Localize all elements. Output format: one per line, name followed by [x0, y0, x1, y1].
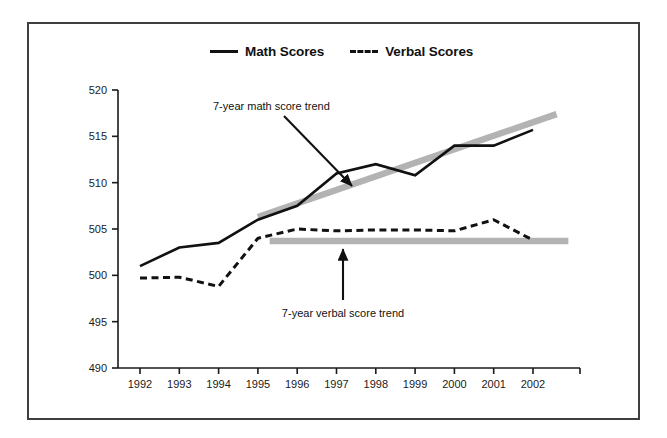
- math-trend-annotation-label: 7-year math score trend: [213, 100, 330, 112]
- x-axis-tick-label: 1999: [403, 378, 427, 390]
- x-axis-tick-label: 2001: [481, 378, 505, 390]
- verbal-scores-line: [140, 220, 533, 287]
- y-axis-tick-label: 510: [89, 177, 107, 189]
- x-axis-tick-label: 1994: [206, 378, 230, 390]
- math-trend-annotation-arrow: [284, 116, 352, 186]
- x-axis-tick-label: 1992: [128, 378, 152, 390]
- solid-line-swatch-icon: [210, 50, 238, 53]
- x-axis-tick-label: 2002: [521, 378, 545, 390]
- annotation-layer: 7-year math score trend7-year verbal sco…: [213, 100, 404, 319]
- plot-area: 5205155105055004954901992199319941995199…: [0, 0, 667, 438]
- y-axis-tick-label: 500: [89, 269, 107, 281]
- chart-figure: Math Scores Verbal Scores 52051551050550…: [0, 0, 667, 438]
- chart-legend: Math Scores Verbal Scores: [210, 44, 473, 59]
- legend-entry-math: Math Scores: [210, 44, 324, 59]
- series-layer: [140, 130, 533, 287]
- x-axis-tick-label: 1998: [364, 378, 388, 390]
- x-axis-tick-label: 1996: [285, 378, 309, 390]
- x-axis-tick-label: 1993: [167, 378, 191, 390]
- x-axis-tick-label: 2000: [442, 378, 466, 390]
- y-axis-tick-label: 490: [89, 362, 107, 374]
- y-axis-tick-label: 495: [89, 316, 107, 328]
- y-axis-tick-label: 520: [89, 84, 107, 96]
- legend-label-math: Math Scores: [245, 44, 324, 59]
- legend-entry-verbal: Verbal Scores: [350, 44, 473, 59]
- math-scores-line: [140, 130, 533, 266]
- x-axis-tick-label: 1995: [246, 378, 270, 390]
- dashed-line-swatch-icon: [350, 50, 378, 53]
- y-axis-tick-label: 515: [89, 130, 107, 142]
- legend-label-verbal: Verbal Scores: [385, 44, 473, 59]
- y-axis-tick-label: 505: [89, 223, 107, 235]
- verbal-trend-annotation-label: 7-year verbal score trend: [282, 307, 404, 319]
- x-axis-tick-label: 1997: [324, 378, 348, 390]
